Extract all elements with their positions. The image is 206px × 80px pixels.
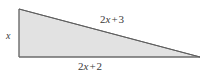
label-base-constant: 2 [97, 60, 103, 72]
label-base-operator: + [88, 60, 96, 72]
triangle-shape [0, 0, 206, 80]
label-leg-variable: x [6, 30, 10, 41]
label-leg: x [6, 31, 10, 41]
label-hypotenuse-constant: 3 [119, 13, 125, 25]
label-base: 2x+2 [78, 61, 102, 72]
triangle-figure: x 2x+3 2x+2 [0, 0, 206, 80]
label-hypotenuse: 2x+3 [100, 14, 124, 25]
label-hypotenuse-operator: + [110, 13, 118, 25]
